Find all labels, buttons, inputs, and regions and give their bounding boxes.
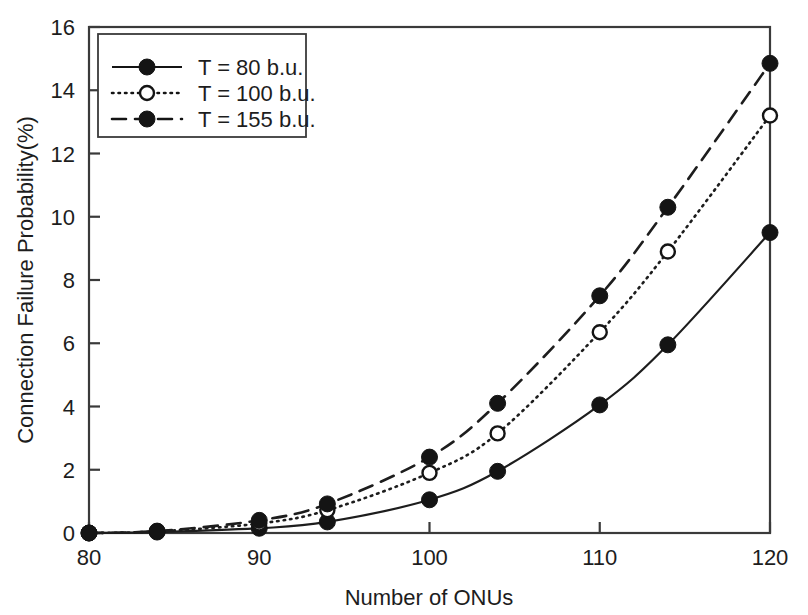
y-tick-label-12: 12 [51, 142, 75, 167]
data-point [490, 395, 506, 411]
y-tick-label-14: 14 [51, 78, 75, 103]
x-tick-label-100: 100 [411, 545, 448, 570]
chart-figure: 0246810121416 8090100110120 Number of ON… [0, 0, 808, 615]
data-point [491, 426, 505, 440]
data-point [319, 496, 335, 512]
series-line-0 [89, 233, 770, 533]
data-point [762, 55, 778, 71]
y-tick-label-4: 4 [63, 395, 75, 420]
y-tick-label-8: 8 [63, 268, 75, 293]
y-tick-label-0: 0 [63, 521, 75, 546]
data-point [762, 225, 778, 241]
legend-marker-0 [139, 59, 155, 75]
data-point [149, 523, 165, 539]
data-point [592, 397, 608, 413]
x-axis-title: Number of ONUs [345, 585, 514, 610]
data-point [660, 199, 676, 215]
series-1 [82, 109, 777, 540]
y-tick-label-6: 6 [63, 331, 75, 356]
data-point [661, 245, 675, 259]
y-tick-label-2: 2 [63, 458, 75, 483]
y-tick-label-16: 16 [51, 15, 75, 40]
series-0 [81, 225, 778, 541]
line-chart: 0246810121416 8090100110120 Number of ON… [0, 0, 808, 615]
data-point [251, 512, 267, 528]
legend-label-1: T = 100 b.u. [198, 81, 316, 106]
legend-marker-1 [140, 86, 154, 100]
data-point [763, 109, 777, 123]
legend: T = 80 b.u.T = 100 b.u.T = 155 b.u. [98, 34, 316, 137]
data-point [593, 325, 607, 339]
data-point [422, 492, 438, 508]
data-point [81, 525, 97, 541]
x-tick-label-120: 120 [752, 545, 789, 570]
data-point [490, 463, 506, 479]
x-tick-label-110: 110 [582, 545, 617, 570]
y-axis-title: Connection Failure Probability(%) [13, 116, 38, 444]
y-axis-tick-labels: 0246810121416 [51, 15, 75, 546]
legend-marker-2 [139, 111, 155, 127]
data-point [592, 288, 608, 304]
data-point [423, 466, 437, 480]
x-tick-label-80: 80 [77, 545, 101, 570]
x-axis-tick-labels: 8090100110120 [77, 545, 789, 570]
x-tick-label-90: 90 [247, 545, 271, 570]
legend-items: T = 80 b.u.T = 100 b.u.T = 155 b.u. [112, 55, 316, 132]
y-tick-label-10: 10 [51, 205, 75, 230]
data-point [660, 337, 676, 353]
legend-label-2: T = 155 b.u. [198, 107, 316, 132]
data-point [422, 449, 438, 465]
legend-label-0: T = 80 b.u. [198, 55, 303, 80]
